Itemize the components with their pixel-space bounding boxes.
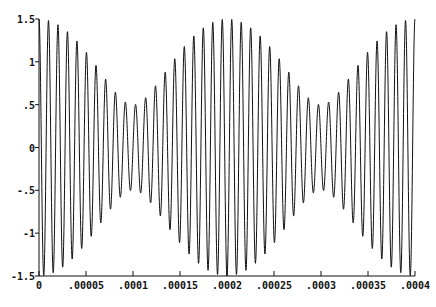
x-tick-label: .00025 <box>256 280 292 291</box>
x-axis-tick-labels: 0.00005.0001.00015.0002.00025.0003.00035… <box>36 280 430 291</box>
x-tick-label: .00015 <box>162 280 198 291</box>
x-tick-label: .00035 <box>350 280 386 291</box>
x-tick-label: 0 <box>36 280 42 291</box>
y-tick-label: 1 <box>29 57 35 68</box>
y-axis-tick-labels: -1.5-1-.50.511.5 <box>11 14 35 282</box>
x-tick-label: .0004 <box>400 280 430 291</box>
x-tick-label: .00005 <box>68 280 104 291</box>
signal-line <box>39 19 415 276</box>
x-tick-label: .0003 <box>306 280 336 291</box>
y-tick-label: -1.5 <box>11 271 35 282</box>
y-tick-label: 1.5 <box>17 14 35 25</box>
y-tick-label: .5 <box>23 100 35 111</box>
chart-canvas: 0.00005.0001.00015.0002.00025.0003.00035… <box>0 0 436 307</box>
y-tick-label: -1 <box>23 228 35 239</box>
axes <box>39 19 415 276</box>
y-tick-label: -.5 <box>17 185 35 196</box>
y-tick-label: 0 <box>29 143 35 154</box>
x-tick-label: .0002 <box>212 280 242 291</box>
x-tick-label: .0001 <box>118 280 148 291</box>
